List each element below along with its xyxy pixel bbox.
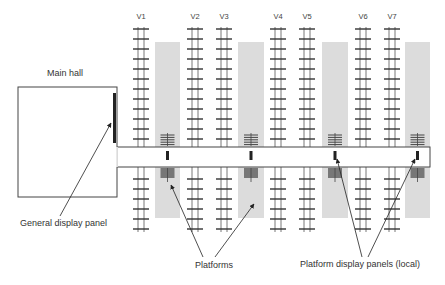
track-V4 xyxy=(270,27,286,232)
platform-display-panel-3 xyxy=(334,151,337,160)
track-V1 xyxy=(133,27,149,232)
track-label-V3: V3 xyxy=(219,12,228,21)
track-label-V4: V4 xyxy=(273,12,282,21)
track-V7 xyxy=(384,27,400,232)
main-hall-building xyxy=(18,87,117,197)
platform-4 xyxy=(405,42,430,218)
track-label-V7: V7 xyxy=(387,12,396,21)
platform-3 xyxy=(322,42,348,218)
track-V2 xyxy=(187,27,203,232)
track-label-V6: V6 xyxy=(358,12,367,21)
track-label-V1: V1 xyxy=(136,12,145,21)
passenger-corridor xyxy=(117,147,430,167)
main-hall-label: Main hall xyxy=(47,68,83,78)
platform-display-panel-4 xyxy=(416,151,419,160)
platform-2 xyxy=(238,42,264,218)
general-display-panel xyxy=(113,93,116,143)
platform-display-panels-label: Platform display panels (local) xyxy=(300,259,420,269)
platform-display-panel-2 xyxy=(250,151,253,160)
station-diagram xyxy=(0,0,445,285)
track-V6 xyxy=(355,27,371,232)
track-V3 xyxy=(216,27,232,232)
track-label-V2: V2 xyxy=(190,12,199,21)
general-display-panel-label: General display panel xyxy=(20,218,107,228)
track-V5 xyxy=(299,27,315,232)
platform-1 xyxy=(155,42,180,218)
track-label-V5: V5 xyxy=(302,12,311,21)
platforms-label: Platforms xyxy=(195,260,233,270)
platform-display-panel-1 xyxy=(166,151,169,160)
